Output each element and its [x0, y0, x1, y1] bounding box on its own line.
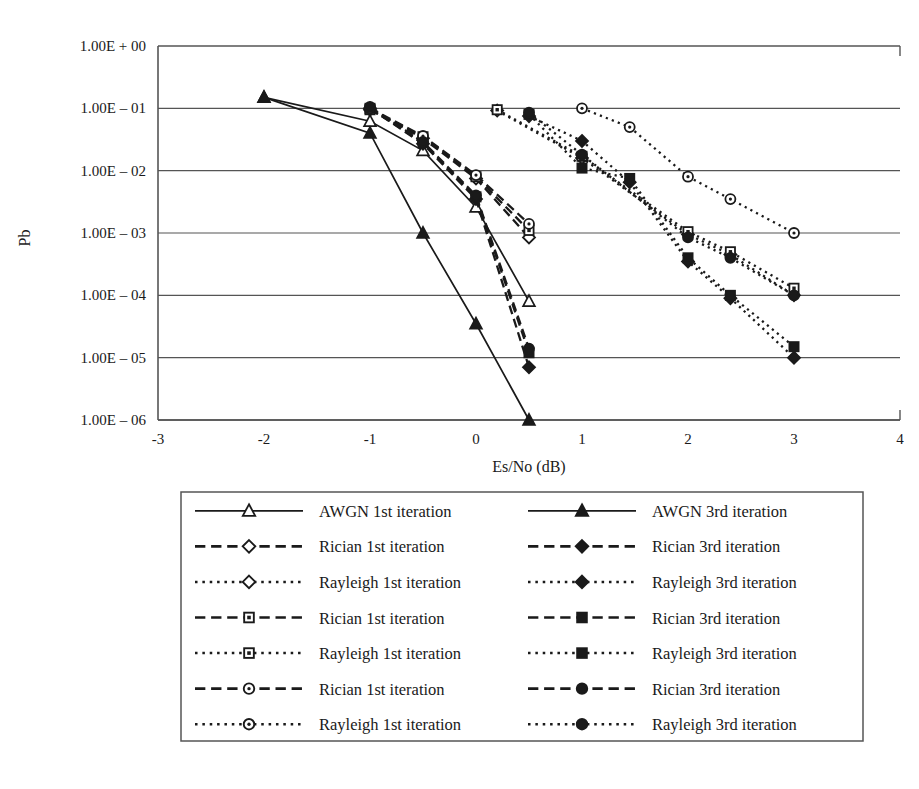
- y-tick-label-0: 1.00E + 00: [80, 38, 146, 54]
- marker-center-dot-10-2: [474, 173, 477, 176]
- marker-circle-filled-leg-5-right: [577, 683, 588, 694]
- legend-label-3-left: Rician 1st iteration: [319, 609, 445, 628]
- y-tick-label-5: 1.00E – 05: [81, 350, 146, 366]
- series-3: [364, 102, 535, 373]
- legend-item-3-right[interactable]: Rician 3rd iteration: [528, 609, 780, 628]
- marker-diamond-filled-5-5: [788, 352, 800, 364]
- marker-square-filled-leg-4-right: [577, 648, 587, 658]
- x-tick-label-3: 0: [472, 431, 480, 447]
- series-line-9: [529, 114, 794, 346]
- legend-label-0-left: AWGN 1st iteration: [319, 502, 451, 521]
- series-11: [365, 102, 534, 354]
- legend-item-0-right[interactable]: AWGN 3rd iteration: [528, 502, 787, 521]
- x-tick-label-group: -3-2-101234: [152, 431, 905, 447]
- marker-circle-filled-13-2: [683, 232, 693, 242]
- bit-error-rate-chart: 1.00E + 001.00E – 011.00E – 021.00E – 03…: [0, 0, 919, 789]
- x-tick-label-2: -1: [364, 431, 377, 447]
- marker-circle-filled-13-4: [789, 290, 799, 300]
- legend-item-5-right[interactable]: Rician 3rd iteration: [528, 680, 780, 699]
- series-line-0: [264, 97, 529, 301]
- marker-center-dot-12-1: [628, 125, 631, 128]
- data-series-group: [258, 91, 800, 425]
- series-line-13: [529, 113, 794, 296]
- legend-label-3-right: Rician 3rd iteration: [652, 609, 780, 628]
- x-tick-label-6: 3: [790, 431, 798, 447]
- x-tick-label-5: 2: [684, 431, 692, 447]
- series-line-1: [264, 97, 529, 420]
- series-8: [493, 105, 799, 293]
- legend-label-5-left: Rician 1st iteration: [319, 680, 445, 699]
- legend-item-4-right[interactable]: Rayleigh 3rd iteration: [528, 644, 797, 663]
- y-axis-title: Pb: [16, 230, 33, 247]
- y-tick-label-6: 1.00E – 06: [81, 412, 147, 428]
- marker-center-dot-leg-4-left: [247, 651, 251, 655]
- marker-triangle-filled-1-2: [417, 227, 429, 238]
- legend-item-2-right[interactable]: Rayleigh 3rd iteration: [528, 573, 797, 592]
- marker-circle-filled-13-1: [577, 150, 587, 160]
- marker-circle-filled-leg-6-right: [577, 719, 588, 730]
- legend-item-1-left[interactable]: Rician 1st iteration: [195, 537, 445, 556]
- y-tick-label-4: 1.00E – 04: [81, 287, 147, 303]
- series-7: [365, 104, 533, 358]
- legend-item-1-right[interactable]: Rician 3rd iteration: [528, 537, 780, 556]
- y-tick-label-3: 1.00E – 03: [81, 225, 146, 241]
- marker-center-dot-12-4: [792, 231, 795, 234]
- marker-center-dot-10-3: [527, 222, 530, 225]
- legend-label-5-right: Rician 3rd iteration: [652, 680, 780, 699]
- legend-item-4-left[interactable]: Rayleigh 1st iteration: [195, 644, 461, 663]
- marker-center-dot-12-3: [729, 197, 732, 200]
- marker-center-dot-leg-6-left: [247, 723, 250, 726]
- marker-circle-filled-11-1: [418, 137, 428, 147]
- y-tick-label-1: 1.00E – 01: [81, 100, 146, 116]
- legend-label-6-right: Rayleigh 3rd iteration: [652, 715, 797, 734]
- x-tick-label-7: 4: [896, 431, 904, 447]
- legend: AWGN 1st iterationAWGN 3rd iterationRici…: [181, 492, 863, 741]
- chart-figure: 1.00E + 001.00E – 011.00E – 021.00E – 03…: [0, 0, 919, 789]
- marker-square-filled-leg-3-right: [577, 613, 587, 623]
- series-line-2: [370, 110, 529, 238]
- marker-diamond-filled-leg-1-right: [576, 540, 589, 553]
- legend-label-1-left: Rician 1st iteration: [319, 537, 445, 556]
- series-2: [364, 104, 535, 244]
- legend-item-6-left[interactable]: Rayleigh 1st iteration: [195, 715, 461, 734]
- marker-center-dot-leg-3-left: [247, 616, 251, 620]
- marker-square-filled-9-2: [625, 174, 634, 183]
- series-line-5: [529, 116, 794, 358]
- marker-circle-filled-13-0: [524, 108, 534, 118]
- marker-circle-filled-11-2: [471, 190, 481, 200]
- marker-circle-filled-13-3: [725, 253, 735, 263]
- marker-center-dot-leg-5-left: [247, 687, 250, 690]
- legend-label-4-right: Rayleigh 3rd iteration: [652, 644, 797, 663]
- marker-triangle-filled-1-3: [470, 318, 482, 329]
- x-tick-label-1: -2: [258, 431, 271, 447]
- legend-label-1-right: Rician 3rd iteration: [652, 537, 780, 556]
- legend-item-6-right[interactable]: Rayleigh 3rd iteration: [528, 715, 797, 734]
- series-13: [524, 108, 799, 301]
- y-tick-label-group: 1.00E + 001.00E – 011.00E – 021.00E – 03…: [80, 38, 147, 428]
- x-tick-label-4: 1: [578, 431, 586, 447]
- y-tick-label-2: 1.00E – 02: [81, 163, 146, 179]
- legend-item-5-left[interactable]: Rician 1st iteration: [195, 680, 445, 699]
- marker-square-filled-9-3: [683, 253, 692, 262]
- marker-square-filled-9-5: [789, 342, 798, 351]
- marker-square-filled-9-1: [577, 163, 586, 172]
- legend-item-2-left[interactable]: Rayleigh 1st iteration: [195, 573, 461, 592]
- marker-center-dot-8-4: [792, 287, 795, 290]
- legend-label-2-right: Rayleigh 3rd iteration: [652, 573, 797, 592]
- legend-label-6-left: Rayleigh 1st iteration: [319, 715, 461, 734]
- series-line-11: [370, 107, 529, 349]
- legend-item-0-left[interactable]: AWGN 1st iteration: [195, 502, 451, 521]
- marker-circle-filled-11-0: [365, 102, 375, 112]
- legend-label-0-right: AWGN 3rd iteration: [652, 502, 787, 521]
- marker-center-dot-8-0: [496, 108, 499, 111]
- marker-diamond-filled-3-3: [523, 361, 535, 373]
- marker-center-dot-12-0: [580, 107, 583, 110]
- series-line-7: [370, 108, 529, 352]
- marker-diamond-open-leg-2-left: [243, 576, 256, 589]
- x-axis-title: Es/No (dB): [492, 458, 565, 476]
- legend-label-4-left: Rayleigh 1st iteration: [319, 644, 461, 663]
- legend-item-3-left[interactable]: Rician 1st iteration: [195, 609, 445, 628]
- marker-circle-filled-11-3: [524, 344, 534, 354]
- marker-diamond-open-leg-1-left: [243, 540, 256, 553]
- marker-center-dot-12-2: [686, 175, 689, 178]
